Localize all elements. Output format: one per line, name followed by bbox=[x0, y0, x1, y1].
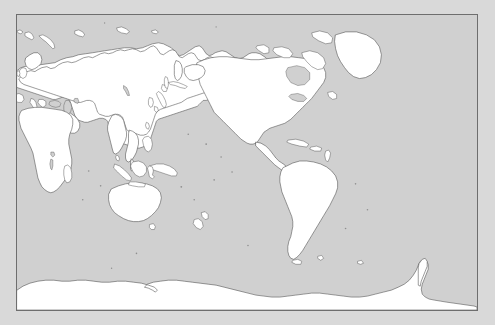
island-speck-indian-1 bbox=[88, 170, 90, 172]
island-sakhalin[interactable] bbox=[164, 77, 168, 89]
island-speck-arctic-2 bbox=[215, 26, 216, 27]
island-speck-pacific-7 bbox=[213, 179, 215, 181]
island-speck-atlantic-2 bbox=[367, 209, 369, 211]
map-frame[interactable] bbox=[16, 14, 478, 311]
island-speck-pacific-4 bbox=[231, 171, 233, 173]
island-speck-atlantic-3 bbox=[345, 228, 347, 230]
island-speck-pacific-3 bbox=[187, 133, 189, 135]
island-speck-indian-2 bbox=[100, 185, 102, 187]
island-madagascar[interactable] bbox=[64, 165, 72, 183]
island-speck-atlantic-1 bbox=[355, 183, 357, 185]
island-british-isles[interactable] bbox=[19, 68, 27, 79]
island-speck-southern-2 bbox=[247, 245, 249, 247]
island-speck-indian-3 bbox=[82, 199, 84, 201]
island-speck-arctic-1 bbox=[104, 22, 105, 23]
island-speck-southern-1 bbox=[136, 253, 138, 255]
island-speck-pacific-1 bbox=[205, 143, 207, 145]
island-speck-pacific-5 bbox=[180, 186, 182, 188]
island-speck-pacific-2 bbox=[220, 156, 222, 158]
island-speck-pacific-6 bbox=[193, 199, 195, 201]
map-viewer bbox=[0, 0, 495, 325]
landmass-korea[interactable] bbox=[148, 97, 153, 107]
island-speck-southern-3 bbox=[111, 268, 112, 269]
world-map-graphic[interactable] bbox=[17, 15, 477, 310]
